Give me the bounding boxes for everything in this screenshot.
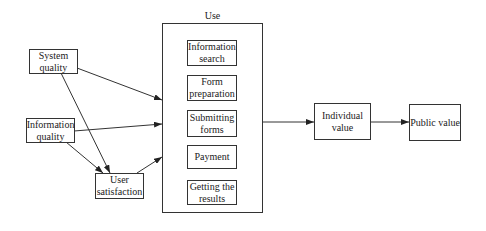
node-label: User xyxy=(97,174,143,186)
node-label: Individual xyxy=(322,110,363,122)
use-group-title: Use xyxy=(162,10,263,22)
node-label: value xyxy=(322,122,363,134)
node-label: Submitting xyxy=(190,112,234,124)
activity-information-search: Information search xyxy=(187,40,237,66)
activity-payment: Payment xyxy=(187,145,237,169)
node-label: search xyxy=(188,53,236,65)
node-label: forms xyxy=(190,124,234,136)
node-individual-value: Individual value xyxy=(314,103,371,140)
node-label: Information xyxy=(188,41,236,53)
is-success-model-diagram: System quality Information quality User … xyxy=(0,0,486,231)
node-label: quality xyxy=(27,131,75,143)
activity-submitting-forms: Submitting forms xyxy=(187,110,237,137)
node-public-value: Public value xyxy=(409,104,461,141)
node-label: Public value xyxy=(410,117,460,129)
node-user-satisfaction: User satisfaction xyxy=(95,173,144,199)
node-label: Form xyxy=(189,76,235,88)
node-information-quality: Information quality xyxy=(26,118,75,143)
activity-getting-the-results: Getting the results xyxy=(187,180,237,205)
node-label: Payment xyxy=(195,151,230,163)
node-label: System xyxy=(39,50,68,62)
arrow-system-quality-to-use xyxy=(77,68,162,100)
arrow-user-satisfaction-to-use xyxy=(137,157,162,173)
node-label: preparation xyxy=(189,88,235,100)
activity-form-preparation: Form preparation xyxy=(187,75,237,101)
node-label: Getting the xyxy=(190,181,235,193)
node-label: Information xyxy=(27,119,75,131)
node-label: quality xyxy=(39,62,68,74)
node-label: satisfaction xyxy=(97,186,143,198)
node-label: results xyxy=(190,193,235,205)
node-system-quality: System quality xyxy=(29,49,78,74)
